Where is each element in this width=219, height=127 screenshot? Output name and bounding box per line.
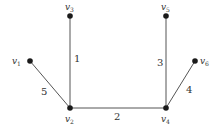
edge-weight-label: 5 [41, 86, 47, 97]
node-label-v5: v5 [161, 2, 170, 13]
node-label-v1: v1 [12, 56, 21, 67]
node-label-v6: v6 [200, 56, 209, 67]
edges [30, 16, 195, 108]
edge-weight-label: 3 [157, 57, 163, 68]
node-v4 [163, 105, 169, 111]
node-v5 [163, 13, 169, 19]
node-v6 [192, 58, 198, 64]
graph-diagram: 12345v1v2v3v4v5v6 [0, 0, 219, 127]
edge-v1-v2 [30, 61, 70, 108]
node-v1 [27, 58, 33, 64]
edge-weight-label: 4 [186, 84, 192, 95]
nodes [27, 13, 198, 111]
node-v2 [67, 105, 73, 111]
edge-weight-label: 2 [114, 111, 120, 122]
node-label-v4: v4 [161, 114, 170, 125]
node-label-v2: v2 [65, 114, 74, 125]
edge-weight-label: 1 [74, 53, 80, 64]
node-v3 [67, 13, 73, 19]
node-label-v3: v3 [65, 2, 74, 13]
labels: 12345v1v2v3v4v5v6 [12, 2, 209, 125]
